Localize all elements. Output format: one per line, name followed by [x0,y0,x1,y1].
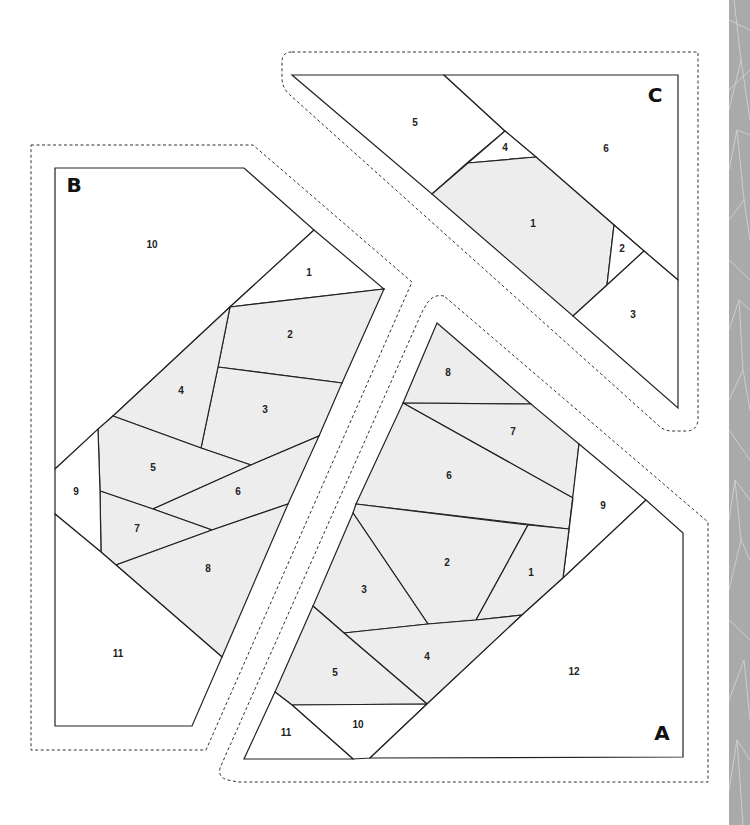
section-b-num-3: 3 [262,404,268,415]
section-b-num-2: 2 [287,329,293,340]
section-a-num-2: 2 [444,557,450,568]
section-a-num-12: 12 [568,666,580,677]
section-b-num-10: 10 [146,239,158,250]
section-b-num-9: 9 [73,486,79,497]
section-b-num-1: 1 [306,267,312,278]
section-b-num-5: 5 [150,462,156,473]
section-c-num-2: 2 [619,243,625,254]
section-c-num-4: 4 [502,142,508,153]
section-b-num-8: 8 [205,563,211,574]
section-c-num-6: 6 [603,143,609,154]
section-c-label: C [648,83,663,107]
section-a-piece-8 [403,323,531,404]
section-a-num-8: 8 [445,367,451,378]
pattern-canvas: 5 6 4 1 2 3 C 10 1 2 3 4 5 6 7 8 9 11 B [0,0,750,825]
section-a-num-1: 1 [528,567,534,578]
section-a-num-3: 3 [361,584,367,595]
section-c-num-1: 1 [530,218,536,229]
section-a-num-7: 7 [510,426,516,437]
section-a-num-11: 11 [281,727,292,738]
section-a-num-10: 10 [352,719,364,730]
section-a-num-6: 6 [446,470,452,481]
section-c-num-5: 5 [412,117,418,128]
section-a-num-9: 9 [600,500,606,511]
section-b-num-11: 11 [113,648,124,659]
section-a-num-5: 5 [332,667,338,678]
section-a-num-4: 4 [424,651,430,662]
section-b-piece-3 [201,367,342,465]
section-b-label: B [66,173,81,197]
section-b-num-6: 6 [235,486,241,497]
section-b-num-4: 4 [178,385,184,396]
section-a-label: A [654,721,670,745]
section-b-num-7: 7 [134,523,140,534]
section-c-num-3: 3 [630,309,636,320]
